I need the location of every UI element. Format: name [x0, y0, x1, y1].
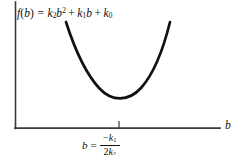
function-expression: f(b)=k2b2+k1b+k0 — [17, 7, 112, 20]
vertex-fraction: −k1 2k2 — [100, 133, 120, 155]
first-plus-sign: + — [68, 7, 75, 19]
linear-variable: b — [86, 7, 92, 19]
fn-close-paren: ) — [30, 7, 34, 19]
second-plus-sign: + — [94, 7, 101, 19]
quadratic-exponent: 2 — [62, 6, 66, 15]
vertex-annotation: b = −k1 2k2 — [82, 133, 120, 155]
vertex-variable: b — [82, 140, 90, 151]
fn-equals-sign: = — [37, 7, 44, 19]
vertex-equals-sign: = — [90, 140, 100, 151]
numerator-subscript: 1 — [113, 136, 116, 143]
quadratic-function-figure: f(b)=k2b2+k1b+k0 b b = −k1 2k2 — [0, 0, 241, 155]
x-axis-label: b — [225, 120, 231, 132]
parabola-curve — [66, 22, 170, 98]
vertex-denominator: 2k2 — [101, 146, 118, 155]
vertex-numerator: −k1 — [101, 133, 118, 145]
denominator-subscript: 2 — [113, 150, 116, 155]
constant-coefficient-subscript: 0 — [109, 11, 113, 20]
plot-canvas — [0, 0, 241, 155]
